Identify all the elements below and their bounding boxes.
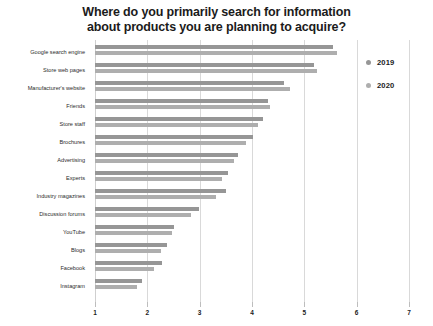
bar-2020: [95, 267, 154, 271]
legend-swatch-icon: [366, 60, 371, 65]
category-label: Advertising: [0, 151, 90, 169]
bar-2019: [95, 207, 199, 211]
category-label: Manufacturer's website: [0, 79, 90, 97]
axis-tick-label: 5: [303, 309, 307, 316]
bar-2019: [95, 171, 228, 175]
bar-2019: [95, 153, 238, 157]
bar-group: [95, 61, 409, 79]
bar-2019: [95, 45, 333, 49]
bar-2020: [95, 69, 317, 73]
axis-tick: [95, 302, 96, 307]
chart-container: Where do you primarily search for inform…: [0, 0, 433, 326]
chart-title-line-1: Where do you primarily search for inform…: [36, 5, 397, 20]
bar-2019: [95, 189, 226, 193]
bar-group: [95, 43, 409, 61]
bar-group: [95, 259, 409, 277]
axis-tick: [409, 302, 410, 307]
bar-2019: [95, 135, 253, 139]
bar-2019: [95, 63, 314, 67]
legend-item-2020[interactable]: 2020: [366, 81, 394, 90]
bar-group: [95, 115, 409, 133]
category-label: Experts: [0, 169, 90, 187]
bar-2020: [95, 249, 161, 253]
category-label: Friends: [0, 97, 90, 115]
legend-label: 2019: [377, 58, 394, 67]
legend-label: 2020: [377, 81, 394, 90]
category-label: Store staff: [0, 115, 90, 133]
axis-tick-label: 1: [93, 309, 97, 316]
axis-tick-label: 2: [146, 309, 150, 316]
category-label: YouTube: [0, 223, 90, 241]
bar-rows: [95, 43, 409, 295]
axis-tick: [252, 302, 253, 307]
legend-item-2019[interactable]: 2019: [366, 58, 394, 67]
axis-tick: [357, 302, 358, 307]
bar-group: [95, 277, 409, 295]
bar-group: [95, 205, 409, 223]
plot-area: [95, 40, 409, 302]
bar-group: [95, 97, 409, 115]
chart-title-line-2: about products you are planning to acqui…: [36, 20, 397, 35]
category-axis-labels: Google search engineStore web pagesManuf…: [0, 43, 90, 295]
category-label: Google search engine: [0, 43, 90, 61]
axis-tick-label: 3: [198, 309, 202, 316]
bar-2020: [95, 195, 216, 199]
bar-2020: [95, 177, 222, 181]
bar-2019: [95, 225, 174, 229]
axis-tick: [304, 302, 305, 307]
bar-group: [95, 169, 409, 187]
bar-2019: [95, 261, 162, 265]
bar-2020: [95, 231, 172, 235]
bar-2020: [95, 51, 337, 55]
bar-2020: [95, 285, 137, 289]
axis-tick-label: 7: [407, 309, 411, 316]
bar-group: [95, 133, 409, 151]
bar-2020: [95, 159, 234, 163]
bar-group: [95, 151, 409, 169]
bar-2020: [95, 105, 270, 109]
category-label: Store web pages: [0, 61, 90, 79]
legend-swatch-icon: [366, 83, 371, 88]
bar-2019: [95, 81, 284, 85]
chart-legend: 20192020: [366, 58, 394, 90]
category-label: Blogs: [0, 241, 90, 259]
bar-2020: [95, 87, 290, 91]
bar-2019: [95, 117, 263, 121]
bar-group: [95, 187, 409, 205]
category-label: Instagram: [0, 277, 90, 295]
bar-group: [95, 241, 409, 259]
axis-tick: [147, 302, 148, 307]
category-label: Brochures: [0, 133, 90, 151]
axis-tick-label: 6: [355, 309, 359, 316]
bar-2019: [95, 279, 142, 283]
bar-2019: [95, 99, 268, 103]
category-label: Facebook: [0, 259, 90, 277]
category-label: Industry magazines: [0, 187, 90, 205]
bar-2019: [95, 243, 167, 247]
bar-2020: [95, 213, 191, 217]
bar-2020: [95, 141, 246, 145]
value-axis: 1234567: [95, 302, 409, 324]
gridline: [409, 40, 410, 302]
chart-title: Where do you primarily search for inform…: [0, 5, 433, 35]
bar-2020: [95, 123, 258, 127]
category-label: Discussion forums: [0, 205, 90, 223]
bar-group: [95, 79, 409, 97]
axis-tick-label: 4: [250, 309, 254, 316]
bar-group: [95, 223, 409, 241]
axis-tick: [200, 302, 201, 307]
